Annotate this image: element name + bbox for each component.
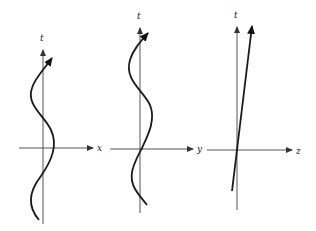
x-axis-label: x <box>97 143 102 153</box>
t-axis-label: t <box>137 11 141 21</box>
worldline-diagram: t x t y t z <box>0 0 316 231</box>
panel-y-t: t y <box>110 11 203 213</box>
z-axis-label: z <box>295 146 301 156</box>
t-axis-label: t <box>40 33 44 43</box>
worldline-line <box>232 26 252 191</box>
worldline-curve <box>31 58 54 220</box>
t-axis-label: t <box>234 10 238 20</box>
y-axis-label: y <box>196 144 203 154</box>
panel-z-t: t z <box>207 10 301 210</box>
panel-x-t: t x <box>19 33 102 224</box>
